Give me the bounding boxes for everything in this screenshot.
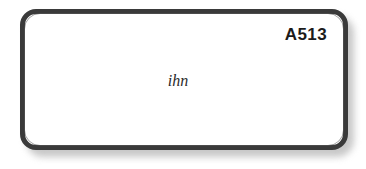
card-word-text: ihn [25,73,343,89]
card-code-label: A513 [285,26,327,43]
flashcard-scene: A513 ihn [0,0,366,169]
flashcard[interactable]: A513 ihn [20,9,348,150]
